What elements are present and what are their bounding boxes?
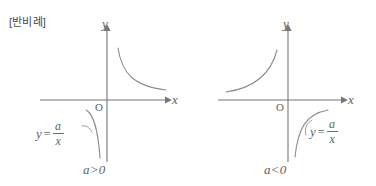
equation-equals: =	[44, 128, 51, 140]
formula-leader-line	[82, 126, 92, 132]
equation-lhs: y	[310, 125, 316, 138]
x-axis-label: x	[172, 92, 178, 108]
origin-label: O	[95, 101, 103, 113]
inverse-proportion-figure: [반비례] y x O y = a x	[0, 0, 376, 186]
condition-value: 0	[280, 162, 287, 177]
x-axis-label: x	[348, 92, 354, 108]
panel-a-positive: y x O y = a x a>0	[0, 0, 188, 186]
condition-variable: a	[83, 162, 90, 177]
hyperbola-branch-quadrant-1	[118, 48, 166, 90]
equation-equals: =	[318, 126, 325, 138]
hyperbola-branch-quadrant-3	[86, 110, 100, 158]
condition-value: 0	[99, 162, 106, 177]
equation-lhs: y	[36, 127, 42, 140]
fraction-denominator: x	[53, 134, 62, 147]
y-axis-label: y	[102, 16, 108, 32]
fraction-numerator: a	[53, 120, 63, 133]
fraction-numerator: a	[327, 118, 337, 131]
condition-variable: a	[264, 162, 271, 177]
y-axis-label: y	[283, 16, 289, 32]
condition-operator: <	[271, 162, 280, 177]
x-axis-arrowhead	[165, 96, 172, 103]
equation-fraction: a x	[53, 120, 64, 147]
condition-operator: >	[90, 162, 99, 177]
origin-label: O	[276, 101, 284, 113]
hyperbola-branch-quadrant-2	[226, 50, 277, 92]
fraction-denominator: x	[327, 132, 336, 145]
condition-label-a-negative: a<0	[264, 162, 286, 178]
graph-canvas-a-positive	[0, 0, 188, 186]
condition-label-a-positive: a>0	[83, 162, 105, 178]
equation-fraction: a x	[327, 118, 338, 145]
equation-label-a-negative: y = a x	[310, 118, 338, 145]
equation-label-a-positive: y = a x	[36, 120, 64, 147]
x-axis-arrowhead	[341, 96, 348, 103]
panel-a-negative: y x O y = a x a<0	[188, 0, 376, 186]
